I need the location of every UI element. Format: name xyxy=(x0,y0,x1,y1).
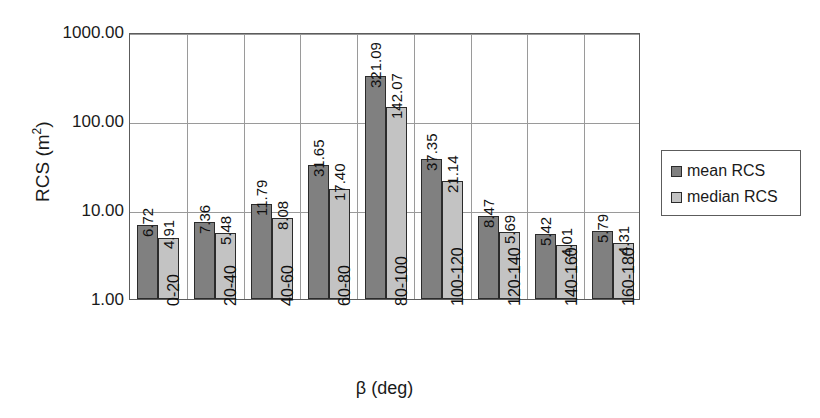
bar-value-label: 321.09 xyxy=(368,42,383,88)
x-axis-title: β (deg) xyxy=(129,378,640,399)
y-axis-tick-label: 1.00 xyxy=(38,291,124,308)
x-axis-tick-label: 40-60 xyxy=(279,265,297,306)
x-axis-tick-label: 100-120 xyxy=(449,247,467,306)
y-axis-ticks: 1000.00100.0010.001.00 xyxy=(28,0,124,418)
bar-value-label: 142.07 xyxy=(389,74,404,120)
bar-value-label: 5.48 xyxy=(218,216,233,245)
gridline-vertical xyxy=(244,34,245,299)
bar-value-label: 5.69 xyxy=(502,215,517,244)
gridline-vertical xyxy=(584,34,585,299)
x-axis-tick-label: 0-20 xyxy=(165,274,183,306)
chart-legend: mean RCS median RCS xyxy=(661,150,801,216)
bar-mean-rcs[interactable] xyxy=(308,165,329,299)
legend-swatch-icon-median xyxy=(671,192,682,203)
bar-value-label: 8.47 xyxy=(481,199,496,228)
bar-mean-rcs[interactable] xyxy=(365,76,386,299)
bar-mean-rcs[interactable] xyxy=(478,216,499,299)
x-axis-tick-label: 60-80 xyxy=(336,265,354,306)
rcs-bar-chart: RCS (m2) 1000.00100.0010.001.00 6.724.91… xyxy=(0,0,820,418)
gridline-vertical xyxy=(414,34,415,299)
x-axis-tick-label: 160-180 xyxy=(620,247,638,306)
y-axis-tick-label: 1000.00 xyxy=(38,24,124,41)
bar-value-label: 5.79 xyxy=(595,214,610,243)
legend-swatch-icon-mean xyxy=(671,166,682,177)
gridline-horizontal xyxy=(130,34,639,35)
gridline-vertical xyxy=(471,34,472,299)
bar-value-label: 6.72 xyxy=(140,208,155,237)
x-axis-tick-label: 20-40 xyxy=(222,265,240,306)
legend-label-median: median RCS xyxy=(687,188,778,206)
y-axis-tick-label: 100.00 xyxy=(38,113,124,130)
bar-value-label: 7.36 xyxy=(197,205,212,234)
bar-value-label: 5.42 xyxy=(538,216,553,245)
bar-value-label: 21.14 xyxy=(445,156,460,194)
bar-mean-rcs[interactable] xyxy=(251,204,272,299)
bar-value-label: 17.40 xyxy=(332,163,347,201)
bar-value-label: 8.08 xyxy=(275,201,290,230)
gridline-vertical xyxy=(527,34,528,299)
bar-value-label: 37.35 xyxy=(424,134,439,172)
x-axis-tick-label: 80-100 xyxy=(393,256,411,306)
bar-value-label: 4.91 xyxy=(161,220,176,249)
bar-value-label: 31.65 xyxy=(311,140,326,178)
legend-item-mean-rcs: mean RCS xyxy=(671,158,800,184)
y-axis-tick-label: 10.00 xyxy=(38,202,124,219)
legend-item-median-rcs: median RCS xyxy=(671,184,800,210)
gridline-vertical xyxy=(300,34,301,299)
bar-mean-rcs[interactable] xyxy=(421,159,442,299)
legend-label-mean: mean RCS xyxy=(687,162,765,180)
x-axis-tick-label: 140-160 xyxy=(563,247,581,306)
gridline-vertical xyxy=(187,34,188,299)
gridline-vertical xyxy=(357,34,358,299)
x-axis-tick-label: 120-140 xyxy=(506,247,524,306)
bar-value-label: 11.79 xyxy=(254,179,269,215)
